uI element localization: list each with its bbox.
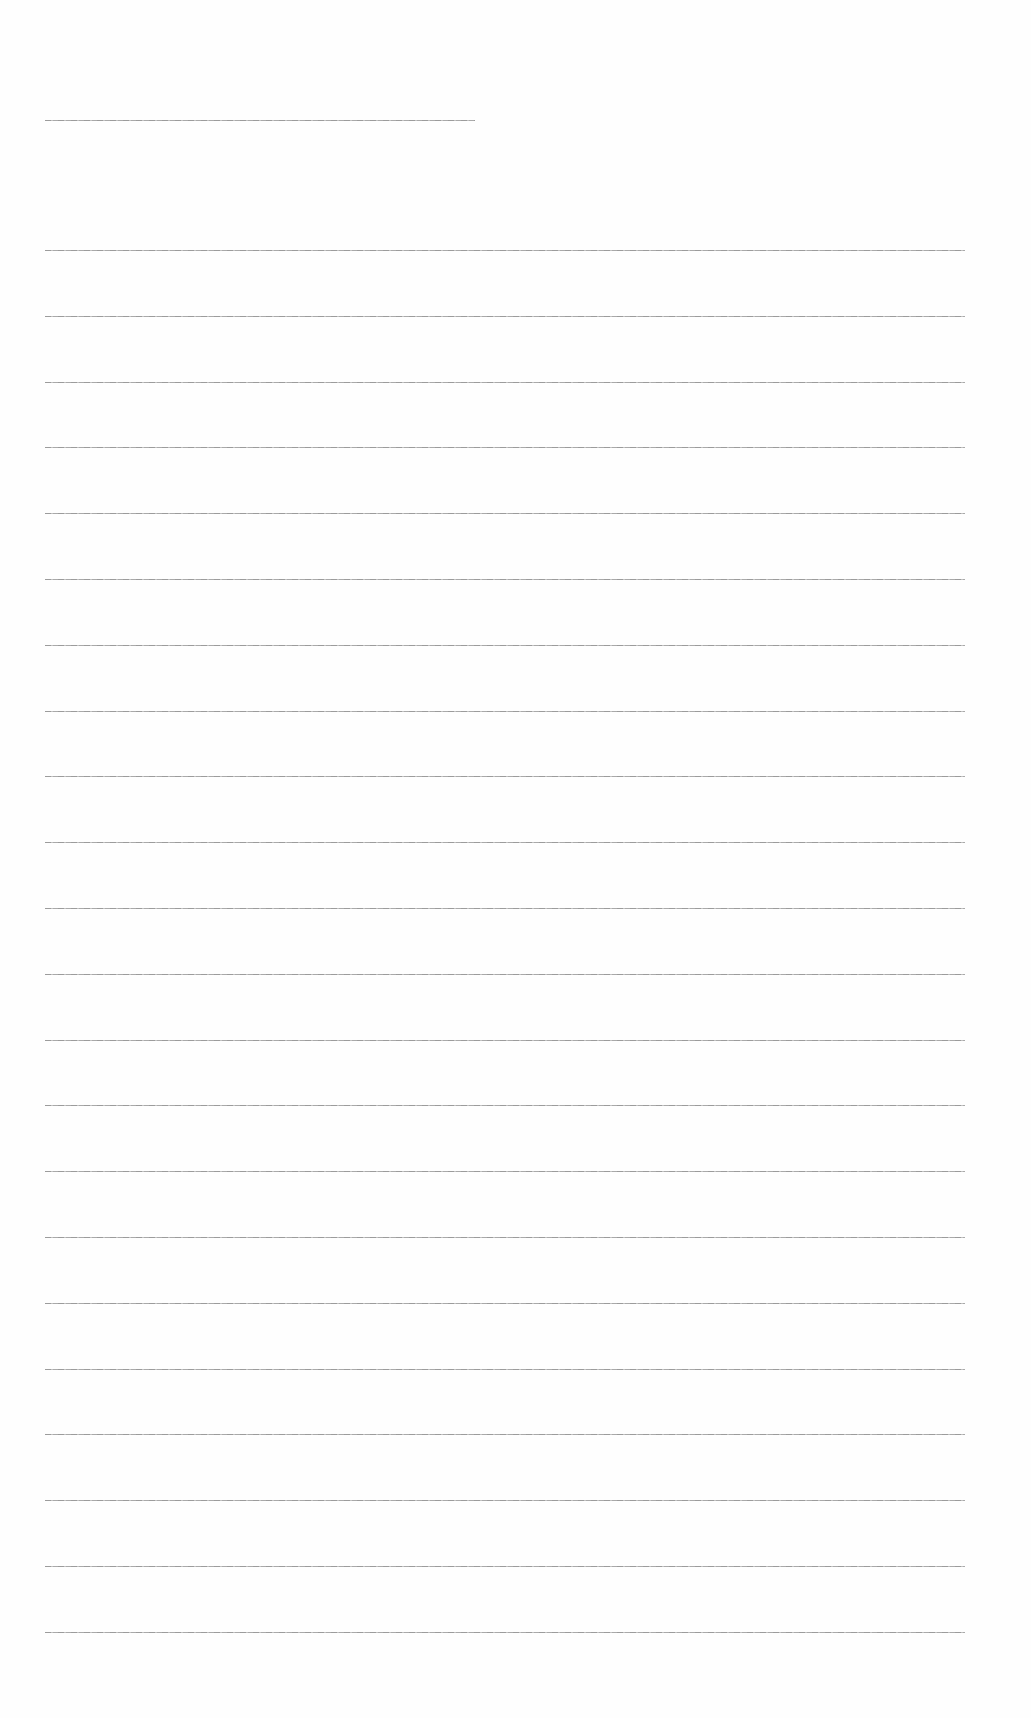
ruled-line — [45, 842, 965, 843]
ruled-line — [45, 711, 965, 712]
ruled-line — [45, 1434, 965, 1435]
ruled-page — [0, 0, 1031, 1718]
ruled-line — [45, 1303, 965, 1304]
header-line — [45, 120, 475, 121]
ruled-line — [45, 316, 965, 317]
ruled-line — [45, 447, 965, 448]
ruled-line — [45, 1171, 965, 1172]
ruled-line — [45, 1237, 965, 1238]
ruled-line — [45, 776, 965, 777]
ruled-line — [45, 908, 965, 909]
ruled-line — [45, 513, 965, 514]
ruled-line — [45, 1105, 965, 1106]
ruled-line — [45, 1632, 965, 1633]
ruled-line — [45, 645, 965, 646]
ruled-line — [45, 579, 965, 580]
ruled-line — [45, 1040, 965, 1041]
ruled-line — [45, 250, 965, 251]
ruled-line — [45, 974, 965, 975]
ruled-line — [45, 1566, 965, 1567]
ruled-line — [45, 1500, 965, 1501]
ruled-line — [45, 1369, 965, 1370]
ruled-line — [45, 382, 965, 383]
